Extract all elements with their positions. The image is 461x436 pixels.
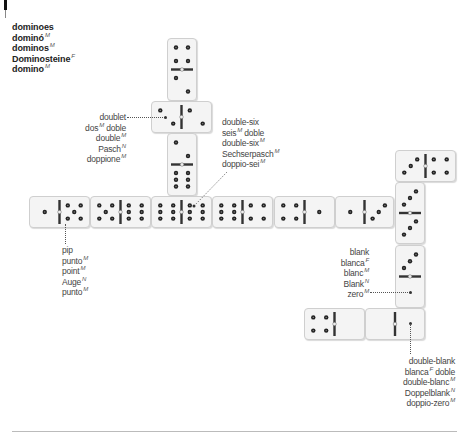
domino-right-top	[395, 150, 456, 182]
corner-mark	[4, 0, 7, 10]
leader-pip	[65, 224, 66, 244]
domino-top-vertical	[167, 38, 197, 101]
domino-right-vertical-1	[395, 182, 425, 244]
domino-row-5	[274, 196, 335, 228]
domino-row-6	[335, 196, 394, 228]
domino-bottom-1	[304, 308, 365, 340]
leader-double-six	[190, 170, 240, 210]
domino-row-2	[90, 196, 151, 228]
title-term-fr: dominosM	[12, 43, 75, 54]
domino-right-vertical-2	[395, 245, 425, 308]
leader-doublet	[127, 117, 165, 118]
leader-blank	[370, 292, 410, 293]
title-term-it: dominoM	[12, 64, 75, 75]
label-double-six: double-six seisM doble double-sixM Sechs…	[222, 117, 279, 170]
leader-double-blank	[410, 324, 411, 354]
domino-row-1	[29, 196, 90, 228]
title-term-de: DominosteineF	[12, 54, 75, 65]
title-term-en: dominoes	[12, 22, 75, 33]
label-blank: blank blancaF blancM BlankN zeroM	[341, 247, 369, 300]
leader-dot-doublet	[164, 116, 167, 119]
bottom-rule	[12, 431, 457, 432]
title-term-es: dominóM	[12, 33, 75, 44]
title-terms: dominoes dominóM dominosM DominosteineF …	[12, 22, 75, 75]
label-doublet: doublet dosM doble doubleM PaschN doppio…	[85, 112, 126, 165]
leader-dot-blank	[409, 291, 412, 294]
domino-double-blank	[365, 308, 425, 340]
corner-line	[5, 10, 6, 18]
label-pip: pip puntoM pointM AugeN puntoM	[62, 245, 88, 298]
label-double-blank: double-blank blancaF doble double-blancM…	[365, 356, 455, 409]
